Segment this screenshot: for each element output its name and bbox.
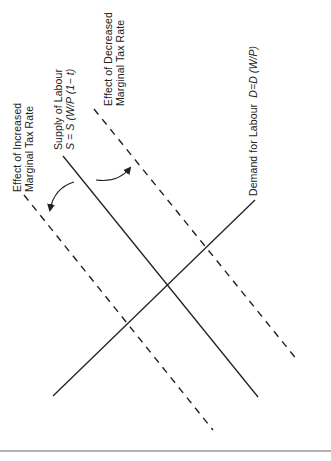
shift-right-arrow-icon [96, 168, 130, 181]
label-increased-tax: Effect of Increased Marginal Tax Rate [11, 103, 35, 192]
label-demand: Demand for Labour D=D (W/P) [247, 46, 259, 196]
diagram-canvas [0, 0, 331, 461]
supply-curve-increased-tax [24, 195, 213, 430]
label-decreased-tax: Effect of Decreased Marginal Tax Rate [102, 12, 126, 106]
label-decreased-line1: Effect of Decreased [102, 12, 114, 106]
supply-curve-decreased-tax [94, 109, 298, 361]
supply-formula: S = S (W/P (1− t) [64, 69, 76, 150]
shift-left-arrow-icon [50, 182, 74, 210]
label-supply-line1: Supply of Labour [52, 69, 64, 150]
label-increased-line2: Marginal Tax Rate [23, 103, 35, 192]
label-supply: Supply of Labour S = S (W/P (1− t) [52, 69, 76, 150]
label-increased-line1: Effect of Increased [11, 103, 23, 192]
label-decreased-line2: Marginal Tax Rate [114, 12, 126, 106]
demand-curve [53, 200, 255, 396]
demand-name: Demand for Labour [247, 104, 259, 196]
demand-formula: D=D (W/P) [247, 46, 259, 98]
label-supply-formula: S = S (W/P (1− t) [64, 69, 76, 150]
